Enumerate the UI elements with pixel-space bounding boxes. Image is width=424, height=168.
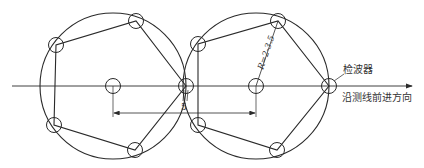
geophone-array-diagram: 5 R=2-3.5 检波器 沿测线前进方向 — [0, 0, 424, 168]
spacing-label: 5 — [181, 102, 187, 112]
radius-label: R=2-3.5 — [255, 34, 276, 72]
geophone-label: 检波器 — [343, 63, 373, 75]
geophone-leader-line — [334, 74, 344, 81]
direction-label: 沿测线前进方向 — [342, 91, 412, 103]
spacing-pointer — [187, 90, 188, 101]
